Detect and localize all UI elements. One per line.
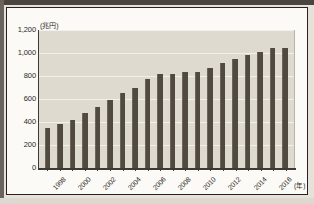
x-axis-tick-label: 2016 [277,176,292,191]
x-label-slot: 2010 [204,169,217,199]
x-axis-tick-mark [110,168,111,171]
chart-card: (兆円) 1,2001,0008006004002000 19982000200… [6,7,308,195]
plot-area [38,30,295,168]
x-axis-tick-mark [185,168,186,171]
bar [282,48,288,168]
bar-slot [104,30,117,168]
x-label-slot [242,169,255,199]
bar [145,79,151,168]
x-axis-tick-label: 2002 [102,176,117,191]
bar [107,100,113,168]
y-axis-line [38,30,39,169]
x-axis-unit-label: (年) [294,180,305,190]
bar [195,72,201,168]
bar-slot [54,30,67,168]
bar-slot [179,30,192,168]
bar-slot [91,30,104,168]
x-axis-tick-label: 2000 [76,176,91,191]
bar [170,74,176,168]
bar [132,88,138,168]
bar-slot [116,30,129,168]
x-axis-tick-label: 2014 [252,176,267,191]
x-axis-tick-mark [47,168,48,171]
x-label-slot [41,169,54,199]
bar [120,93,126,168]
bar [220,63,226,168]
y-axis-tick-labels: 1,2001,0008006004002000 [7,8,36,194]
bar [57,124,63,168]
chart-figure: (兆円) 1,2001,0008006004002000 19982000200… [7,8,307,194]
x-label-slot: 2002 [104,169,117,199]
bar [70,120,76,168]
x-label-slot [267,169,280,199]
bar-slot [254,30,267,168]
bar [232,59,238,168]
y-axis-tick-label: 1,200 [7,26,36,34]
bar-slot [154,30,167,168]
x-axis-tick-mark [160,168,161,171]
x-label-slot: 2012 [229,169,242,199]
y-axis-tick-label: 0 [7,164,36,172]
x-axis-tick-label: 2004 [127,176,142,191]
page-top-edge [0,0,314,5]
bar-slot [166,30,179,168]
x-label-slot: 1998 [54,169,67,199]
x-axis-tick-mark [286,168,287,171]
bar [270,48,276,168]
x-axis-tick-mark [97,168,98,171]
bar-slot [66,30,79,168]
x-axis-tick-mark [60,168,61,171]
bar [207,68,213,168]
y-axis-tick-label: 800 [7,72,36,80]
x-axis-tick-mark [123,168,124,171]
x-axis-tick-mark [223,168,224,171]
y-axis-unit-label: (兆円) [40,20,59,30]
x-axis-tick-mark [148,168,149,171]
bar [95,107,101,168]
y-axis-tick-label: 400 [7,118,36,126]
y-axis-tick-label: 200 [7,141,36,149]
bar-slot [266,30,279,168]
x-axis-tick-label: 2012 [227,176,242,191]
x-label-slot: 2006 [154,169,167,199]
page-root: (兆円) 1,2001,0008006004002000 19982000200… [0,0,314,204]
x-axis-tick-mark [173,168,174,171]
x-axis-tick-mark [85,168,86,171]
bar [182,72,188,168]
x-axis-tick-label: 2006 [152,176,167,191]
x-axis-tick-mark [210,168,211,171]
bar [82,113,88,168]
x-axis-tick-mark [236,168,237,171]
bar [45,128,51,168]
x-axis-tick-label: 2008 [177,176,192,191]
y-axis-tick-label: 1,000 [7,49,36,57]
bar [245,55,251,168]
x-axis-tick-mark [135,168,136,171]
bar [157,74,163,168]
x-axis-tick-labels: 1998200020022004200620082010201220142016 [38,169,295,199]
x-axis-tick-label: 2010 [202,176,217,191]
x-axis-tick-label: 1998 [51,176,66,191]
bar-slot [216,30,229,168]
x-label-slot: 2000 [79,169,92,199]
bar-slot [229,30,242,168]
x-axis-tick-mark [273,168,274,171]
bar-slot [41,30,54,168]
bar-slot [279,30,292,168]
bar-slot [79,30,92,168]
x-axis-tick-mark [248,168,249,171]
bar-slot [191,30,204,168]
bar-slot [129,30,142,168]
bar-slot [241,30,254,168]
bar-series [38,30,294,168]
bar [257,52,263,168]
x-axis-tick-mark [72,168,73,171]
x-label-slot: 2008 [179,169,192,199]
x-label-slot: 2014 [254,169,267,199]
x-label-slot: 2016 [279,169,292,199]
x-axis-tick-mark [261,168,262,171]
x-label-slot: 2004 [129,169,142,199]
bar-slot [204,30,217,168]
bar-slot [141,30,154,168]
y-axis-tick-label: 600 [7,95,36,103]
